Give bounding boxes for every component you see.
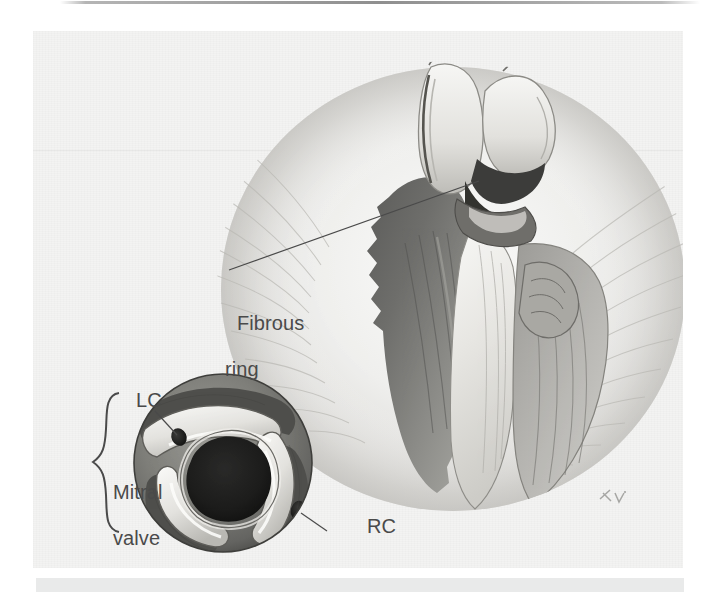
label-fibrous-ring: Fibrous ring bbox=[203, 289, 304, 427]
label-fibrous-ring-line2: ring bbox=[203, 358, 304, 381]
scan-top-edge-line bbox=[60, 1, 700, 4]
figure-screenshot: Fibrous ring LC RC Mitral valve area bbox=[0, 0, 716, 604]
scan-bottom-edge-bar bbox=[36, 578, 684, 592]
artist-signature bbox=[600, 490, 626, 502]
label-mitral-valve-area: Mitral valve area bbox=[79, 458, 145, 568]
label-mitral-line2: valve bbox=[113, 527, 160, 549]
label-lc: LC bbox=[136, 389, 162, 412]
valve-orifice bbox=[186, 437, 271, 522]
label-mitral-line1: Mitral bbox=[113, 481, 163, 503]
label-fibrous-ring-line1: Fibrous bbox=[237, 312, 304, 334]
scanned-figure-plate: Fibrous ring LC RC Mitral valve area bbox=[33, 31, 683, 568]
label-rc: RC bbox=[367, 515, 396, 538]
leader-line-rc bbox=[301, 513, 327, 531]
